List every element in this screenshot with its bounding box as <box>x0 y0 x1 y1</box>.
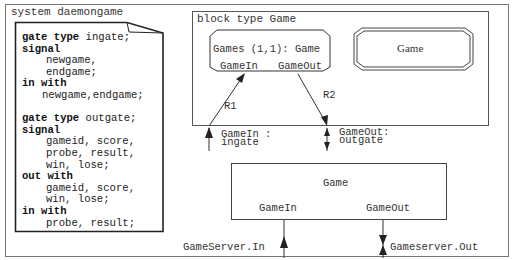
instance-gate-in-label: GameIn <box>220 61 258 72</box>
game-block-gate-in: GameIn <box>259 203 297 214</box>
route-r2-label: R2 <box>323 90 336 101</box>
note-keyword: signal <box>22 124 60 136</box>
note-text: outgate; <box>79 112 136 124</box>
note-keyword: out with <box>22 170 73 182</box>
note-keyword: gate type <box>22 112 79 124</box>
note-text: ingate; <box>79 31 130 43</box>
note-text: newgame,endgame; <box>42 89 144 101</box>
channel-in-label: GameServer.In <box>183 242 265 253</box>
channel-out-arrowhead-up <box>379 245 387 255</box>
gate-out-arrowhead-up <box>324 128 330 136</box>
block-type-title: block type Game <box>197 14 296 25</box>
note-line: newgame,endgame; <box>22 90 144 102</box>
note-text: probe, result; <box>46 217 135 229</box>
gate-in-arrowhead <box>205 127 213 138</box>
note-text: endgame; <box>46 66 97 78</box>
route-r2 <box>298 74 326 123</box>
note-text: newgame, <box>46 54 97 66</box>
game-block-label[interactable]: Game <box>323 178 348 189</box>
gate-out-arrowhead-down <box>324 142 330 150</box>
block-type-reference-label[interactable]: Game <box>397 43 423 54</box>
note-text: probe, result, <box>46 147 135 159</box>
note-text: win, lose; <box>46 193 110 205</box>
note-keyword: gate type <box>22 31 79 43</box>
text-symbol-content: gate type ingate;signalnewgame,endgame;i… <box>22 32 144 229</box>
gate-in-label-type: ingate <box>221 138 259 147</box>
block-instance-label[interactable]: Games (1,1): Game <box>213 44 320 55</box>
instance-gate-out-label: GameOut <box>278 61 322 72</box>
system-title: system daemongame <box>11 7 123 18</box>
note-text: gameid, score, <box>46 182 135 194</box>
note-keyword: signal <box>22 43 60 55</box>
gate-out-label-type: outgate <box>339 136 383 145</box>
game-block-gate-out: GameOut <box>366 203 410 214</box>
route-r1-label: R1 <box>224 101 237 112</box>
channel-in-arrowhead <box>280 236 288 248</box>
note-line: probe, result; <box>22 218 144 230</box>
note-keyword: in with <box>22 205 67 217</box>
channel-out-arrowhead-down <box>379 235 387 245</box>
note-text: win, lose; <box>46 159 110 171</box>
route-r1-arrowhead <box>236 73 245 83</box>
channel-out-label: Gameserver.Out <box>390 242 478 253</box>
note-keyword: in with <box>22 77 67 89</box>
note-text: gameid, score, <box>46 135 135 147</box>
